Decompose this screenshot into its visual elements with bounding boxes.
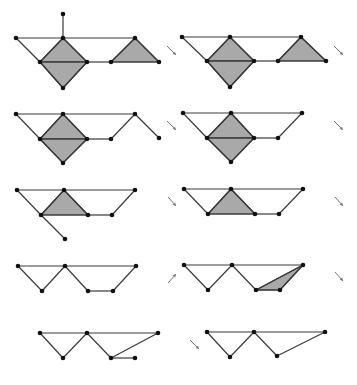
graph-vertex xyxy=(205,136,210,141)
graph-vertex xyxy=(85,60,90,65)
graph-vertex xyxy=(85,137,90,142)
graph-vertex xyxy=(61,12,66,17)
graph-vertex xyxy=(180,35,185,40)
shaded-triangle-face xyxy=(207,61,254,87)
graph-vertex xyxy=(63,264,68,269)
graph-edge xyxy=(111,114,135,139)
graph-panel-r2c2 xyxy=(181,111,305,165)
graph-vertex xyxy=(61,161,66,166)
graph-edge xyxy=(40,333,63,358)
graph-vertex xyxy=(62,188,67,193)
graph-edge xyxy=(16,38,40,62)
graph-vertex xyxy=(324,59,329,64)
graph-edge xyxy=(135,114,159,138)
graph-panel-r5c1 xyxy=(38,331,161,361)
graph-vertex xyxy=(252,59,257,64)
shaded-triangle-face xyxy=(207,138,254,162)
graph-panel-r4c1 xyxy=(16,264,139,294)
graph-edge xyxy=(254,332,277,356)
graph-vertex xyxy=(86,213,91,218)
graph-vertex xyxy=(182,187,187,192)
down-right-arrow-icon xyxy=(167,121,176,130)
graph-edge xyxy=(183,113,207,138)
graph-vertex xyxy=(40,289,45,294)
graph-edge xyxy=(232,265,256,290)
down-right-arrow-icon xyxy=(335,272,343,281)
graph-vertex xyxy=(61,112,66,117)
graph-edge xyxy=(182,37,207,61)
graph-panel-r3c2 xyxy=(182,187,306,217)
graph-vertex xyxy=(230,263,235,268)
graph-panels xyxy=(14,12,329,361)
graph-edge xyxy=(42,266,65,291)
graph-vertex xyxy=(86,289,91,294)
graph-panel-r1c2 xyxy=(180,35,329,90)
graph-edge xyxy=(65,266,88,291)
down-right-arrow-icon xyxy=(334,46,343,55)
shaded-triangle-face xyxy=(40,139,87,163)
graph-vertex xyxy=(14,36,19,41)
shaded-triangle-face xyxy=(40,114,87,139)
graph-vertex xyxy=(38,137,43,142)
graph-vertex xyxy=(157,60,162,65)
graph-vertex xyxy=(181,111,186,116)
graph-edge xyxy=(63,333,87,358)
down-right-arrow-icon xyxy=(335,197,343,206)
graph-edge xyxy=(278,113,302,138)
graph-panel-r5c2 xyxy=(205,330,328,360)
graph-edge xyxy=(184,265,208,290)
graph-sequence-diagram xyxy=(0,0,357,385)
graph-vertex xyxy=(205,330,210,335)
graph-panel-r2c1 xyxy=(14,112,162,166)
graph-vertex xyxy=(16,264,21,269)
graph-edge xyxy=(112,190,135,215)
graph-vertex xyxy=(228,355,233,360)
graph-edge xyxy=(18,266,42,291)
graph-vertex xyxy=(228,35,233,40)
graph-vertex xyxy=(38,60,43,65)
graph-edge xyxy=(17,190,41,215)
up-right-arrow-icon xyxy=(168,274,176,283)
graph-edge xyxy=(111,333,158,358)
down-right-arrow-icon xyxy=(190,340,199,349)
graph-vertex xyxy=(206,212,211,217)
graph-edge xyxy=(230,332,254,357)
graph-vertex xyxy=(228,85,233,90)
graph-vertex xyxy=(133,36,138,41)
graph-vertex xyxy=(14,112,19,117)
graph-panel-r3c1 xyxy=(15,188,138,242)
graph-vertex xyxy=(275,354,280,359)
graph-vertex xyxy=(252,136,257,141)
graph-vertex xyxy=(38,331,43,336)
graph-vertex xyxy=(276,136,281,141)
graph-vertex xyxy=(229,187,234,192)
graph-vertex xyxy=(254,288,259,293)
graph-vertex xyxy=(157,136,162,141)
shaded-triangle-face xyxy=(40,62,87,88)
graph-vertex xyxy=(301,263,306,268)
down-right-arrow-icon xyxy=(334,121,343,130)
graph-edge xyxy=(279,189,303,214)
shaded-triangle-face xyxy=(40,38,87,62)
graph-vertex xyxy=(61,86,66,91)
graph-edge xyxy=(41,215,65,239)
graph-vertex xyxy=(229,111,234,116)
graph-vertex xyxy=(133,112,138,117)
shaded-triangle-face xyxy=(278,37,326,61)
graph-edge xyxy=(184,189,208,214)
shaded-triangle-face xyxy=(207,113,254,138)
graph-vertex xyxy=(39,213,44,218)
graph-vertex xyxy=(109,356,114,361)
graph-vertex xyxy=(134,264,139,269)
shaded-triangle-face xyxy=(208,189,255,214)
shaded-triangle-face xyxy=(111,38,159,62)
transition-arrows xyxy=(167,46,343,349)
graph-vertex xyxy=(111,289,116,294)
graph-vertex xyxy=(278,288,283,293)
down-right-arrow-icon xyxy=(167,46,176,55)
graph-vertex xyxy=(133,356,138,361)
graph-vertex xyxy=(253,212,258,217)
graph-vertex xyxy=(15,188,20,193)
graph-vertex xyxy=(323,330,328,335)
graph-edge xyxy=(208,265,232,290)
